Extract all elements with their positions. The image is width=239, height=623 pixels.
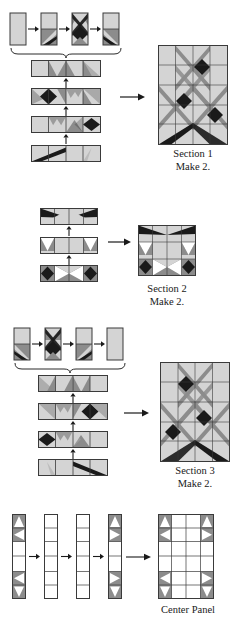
section-2-caption-line-1: Section 2 (133, 283, 201, 296)
section-3-block (160, 362, 230, 462)
section-2-caption: Section 2 Make 2. (133, 283, 201, 308)
section-1-caption-line-1: Section 1 (158, 148, 228, 161)
right-arrow-icon (61, 552, 73, 561)
up-arrow-icon (69, 393, 77, 403)
section-1-block (158, 45, 228, 145)
section-3-strip-row-1 (38, 375, 108, 392)
section-3-caption-line-2: Make 2. (160, 478, 230, 491)
unit-star-diamond (72, 13, 88, 45)
up-arrow-icon (65, 226, 73, 236)
right-arrow-icon (28, 26, 39, 32)
up-arrow-icon (62, 78, 70, 88)
center-panel-caption: Center Panel (148, 604, 228, 617)
section-1-caption-line-2: Make 2. (158, 161, 228, 174)
unit-corner-triangles (41, 13, 57, 45)
right-arrow-icon (59, 26, 70, 32)
section-3-strip-row-4 (38, 459, 108, 476)
unit-plain-rectangle (107, 328, 123, 360)
center-panel-block (158, 514, 214, 599)
section-2-caption-line-2: Make 2. (133, 296, 201, 309)
right-arrow-icon (93, 552, 105, 561)
section-1-strip-row-4 (31, 145, 101, 162)
unit-reverse-triangles (103, 13, 119, 45)
section-1-strip-row-2 (31, 88, 101, 105)
section-3-unit-row (13, 327, 133, 361)
right-arrow-icon (124, 408, 150, 418)
section-2-strip-row-3 (40, 265, 98, 282)
section-3-caption-line-1: Section 3 (160, 465, 230, 478)
right-arrow-icon (126, 552, 152, 562)
section-3-caption: Section 3 Make 2. (160, 465, 230, 490)
section-1-strip-row-1 (31, 60, 101, 77)
curly-brace (14, 362, 126, 374)
unit-plain-rectangle (10, 13, 26, 45)
diagram-canvas: Section 1 Make 2. (0, 0, 239, 623)
center-panel-column-plain-1 (44, 514, 58, 599)
right-arrow-icon (94, 341, 105, 347)
section-2-strip-row-2 (40, 237, 98, 254)
section-3-strip-row-2 (38, 403, 108, 420)
section-1-strip-row-3 (31, 116, 101, 133)
right-arrow-icon (108, 237, 132, 247)
center-panel-column-plain-2 (76, 514, 90, 599)
section-2-block (138, 225, 196, 276)
section-1-caption: Section 1 Make 2. (158, 148, 228, 173)
right-arrow-icon (63, 341, 74, 347)
unit-corner-triangles (76, 328, 92, 360)
section-1-unit-row (9, 12, 129, 46)
section-2-strip-row-1 (40, 208, 98, 225)
right-arrow-icon (32, 341, 43, 347)
up-arrow-icon (69, 449, 77, 459)
right-arrow-icon (29, 552, 41, 561)
up-arrow-icon (65, 255, 73, 265)
up-arrow-icon (69, 421, 77, 431)
center-panel-column-pieced-left (12, 514, 26, 599)
curly-brace (10, 47, 122, 59)
section-3-strip-row-3 (38, 431, 108, 448)
center-panel-caption-line-1: Center Panel (148, 604, 228, 617)
up-arrow-icon (62, 106, 70, 116)
up-arrow-icon (62, 134, 70, 144)
unit-star-diamond (45, 328, 61, 360)
center-panel-column-pieced-right (108, 514, 122, 599)
right-arrow-icon (90, 26, 101, 32)
unit-reverse-triangles (14, 328, 30, 360)
right-arrow-icon (120, 92, 146, 102)
